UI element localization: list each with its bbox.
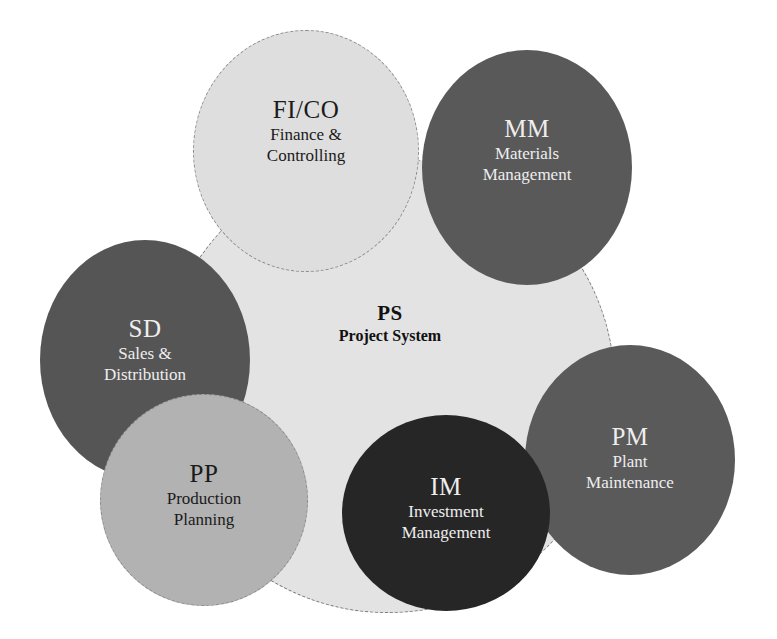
module-sd-line2: Distribution — [104, 364, 186, 385]
module-fico-line1: Finance & — [267, 124, 345, 145]
module-sd-line1: Sales & — [104, 343, 186, 364]
module-pp-line1: Production — [167, 488, 242, 509]
module-pp-abbr: PP — [167, 460, 242, 488]
module-fico-abbr: FI/CO — [267, 96, 345, 124]
module-fico: FI/CO Finance & Controlling — [193, 30, 419, 272]
module-pm-abbr: PM — [586, 423, 674, 451]
module-im: IM Investment Management — [342, 415, 550, 611]
ps-abbr: PS — [300, 300, 480, 326]
module-im-line1: Investment — [402, 501, 491, 522]
module-pm-line1: Plant — [586, 451, 674, 472]
ps-core-label: PS Project System — [300, 300, 480, 346]
module-fico-line2: Controlling — [267, 145, 345, 166]
module-mm: MM Materials Management — [422, 50, 632, 285]
ps-name: Project System — [300, 326, 480, 346]
module-sd-abbr: SD — [104, 315, 186, 343]
module-pm-line2: Maintenance — [586, 472, 674, 493]
module-mm-abbr: MM — [483, 115, 572, 143]
sap-module-diagram: FI/CO Finance & Controlling MM Materials… — [0, 0, 777, 639]
module-pp: PP Production Planning — [100, 394, 308, 606]
module-mm-line2: Management — [483, 164, 572, 185]
module-im-abbr: IM — [402, 473, 491, 501]
module-mm-line1: Materials — [483, 143, 572, 164]
module-pm: PM Plant Maintenance — [525, 345, 735, 575]
module-im-line2: Management — [402, 522, 491, 543]
module-pp-line2: Planning — [167, 509, 242, 530]
